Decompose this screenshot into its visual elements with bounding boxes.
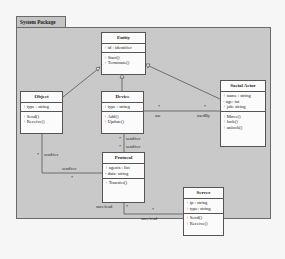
operations-section: + Start() + Terminate() xyxy=(102,53,145,67)
role-protocol-object: send/rec xyxy=(62,166,76,171)
class-name: Social Actor xyxy=(221,81,265,92)
generalization-social-entity xyxy=(149,66,220,99)
role-protocol-server: save/read xyxy=(96,204,112,209)
attribute: + job: string xyxy=(223,104,263,110)
operation: + Receive() xyxy=(23,119,60,125)
class-entity[interactable]: Entity + id : identifier + Start() + Ter… xyxy=(101,32,146,75)
class-device[interactable]: Device + type : string + Add() + Update(… xyxy=(101,91,144,134)
class-server[interactable]: Server + ip : string + type: string + Se… xyxy=(183,187,224,236)
operation: + Terminate() xyxy=(104,60,143,66)
attribute: + type: string xyxy=(186,206,221,212)
class-name: Device xyxy=(102,92,143,103)
operations-section: + Add() + Update() xyxy=(102,112,143,126)
operation: + Update() xyxy=(104,119,141,125)
role-device-protocol-top: send/rec xyxy=(126,136,140,141)
role-use: use xyxy=(155,113,161,118)
attributes-section: + ip : string + type: string xyxy=(184,199,223,214)
multiplicity-protocol-object: * xyxy=(71,175,73,180)
operations-section: + Move() + lock() + unlock() xyxy=(221,112,265,132)
operations-section: + Send() + Receive() xyxy=(184,214,223,228)
class-name: Object xyxy=(21,92,62,103)
class-social-actor[interactable]: Social Actor + name : string - age: int … xyxy=(220,80,266,147)
attribute: + type : string xyxy=(23,104,60,110)
class-name: Protocol xyxy=(103,153,144,164)
role-object-protocol: send/rec xyxy=(44,152,58,157)
multiplicity-social-usedby: * xyxy=(204,104,206,109)
multiplicity-device-protocol-top: * xyxy=(119,136,121,141)
generalization-arrowhead-social xyxy=(146,64,150,68)
operation: + Receive() xyxy=(186,221,221,227)
attributes-section: + name : string - age: int + job: string xyxy=(221,92,265,113)
attributes-section: + type : string xyxy=(102,103,143,113)
attributes-section: + id : identifier xyxy=(102,44,145,54)
class-name: Entity xyxy=(102,33,145,44)
multiplicity-device-protocol-bottom: * xyxy=(119,144,121,149)
multiplicity-protocol-server: * xyxy=(126,204,128,209)
multiplicity-object-protocol: * xyxy=(37,152,39,157)
operations-section: + Send() + Receive() xyxy=(21,112,62,126)
role-server-protocol: save/read xyxy=(141,216,157,221)
role-usedby: usedBy xyxy=(197,113,210,118)
attribute: + id : identifier xyxy=(104,45,143,51)
attributes-section: + agents : list - data: string xyxy=(103,164,144,179)
multiplicity-server-protocol: * xyxy=(152,207,154,212)
class-name: Server xyxy=(184,188,223,199)
attributes-section: + type : string xyxy=(21,103,62,113)
generalization-object-entity xyxy=(63,69,98,97)
class-protocol[interactable]: Protocol + agents : list - data: string … xyxy=(102,152,145,203)
operations-section: + Transfer() xyxy=(103,179,144,188)
class-object[interactable]: Object + type : string + Send() + Receiv… xyxy=(20,91,63,134)
attribute: - data: string xyxy=(105,171,142,177)
operation: + unlock() xyxy=(223,125,263,131)
multiplicity-device-use: * xyxy=(158,104,160,109)
role-device-protocol-bottom: send/rec xyxy=(126,144,140,149)
operation: + Transfer() xyxy=(105,180,142,186)
attribute: + type : string xyxy=(104,104,141,110)
